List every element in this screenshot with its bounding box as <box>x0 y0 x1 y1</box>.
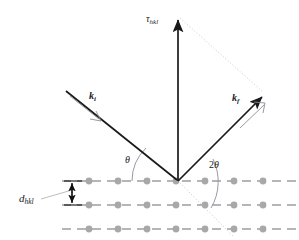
diagram-canvas <box>0 0 299 240</box>
lattice-atom <box>173 202 180 209</box>
lattice-atom <box>86 202 93 209</box>
lattice-atom <box>173 226 180 233</box>
lattice-atom <box>115 178 122 185</box>
lattice-atom <box>202 226 209 233</box>
k-incident-subscript: i <box>94 95 96 103</box>
lattice-atom <box>144 178 151 185</box>
theta-symbol: θ <box>125 154 130 165</box>
d-symbol: d <box>19 192 25 204</box>
lattice-atom <box>260 178 267 185</box>
construction-line-tau-to-kf <box>180 18 263 92</box>
construction-line-d-leader <box>41 190 72 199</box>
lattice-atom <box>144 202 151 209</box>
k-incident-vector <box>66 91 177 180</box>
lattice-atom <box>202 178 209 185</box>
k-incident-label: ki <box>89 91 96 101</box>
lattice-atom <box>86 178 93 185</box>
lattice-atom <box>231 178 238 185</box>
lattice-atom <box>86 226 93 233</box>
k-incident-direction-icon <box>70 96 101 121</box>
k-final-subscript: f <box>237 97 239 105</box>
k-final-vector <box>178 97 262 181</box>
d-spacing-indicator <box>64 181 82 205</box>
lattice-atom <box>202 202 209 209</box>
lattice-atom <box>260 202 267 209</box>
d-spacing-label: dhkl <box>19 193 34 204</box>
d-subscript: hkl <box>25 197 34 206</box>
tau-subscript: hkl <box>150 18 159 26</box>
lattice-atom <box>231 226 238 233</box>
lattice-atom <box>144 226 151 233</box>
theta-angle-label: θ <box>125 155 130 165</box>
lattice-atom <box>260 226 267 233</box>
two-theta-symbol: θ <box>214 159 219 170</box>
bragg-diffraction-diagram: τhkl ki kf θ 2θ dhkl <box>0 0 299 240</box>
k-final-label: kf <box>232 93 239 103</box>
lattice-atom <box>115 226 122 233</box>
construction-lines <box>41 18 263 236</box>
lattice-atom <box>231 202 238 209</box>
tau-vector-label: τhkl <box>146 14 158 24</box>
two-theta-angle-label: 2θ <box>209 160 219 170</box>
lattice-atom <box>115 202 122 209</box>
